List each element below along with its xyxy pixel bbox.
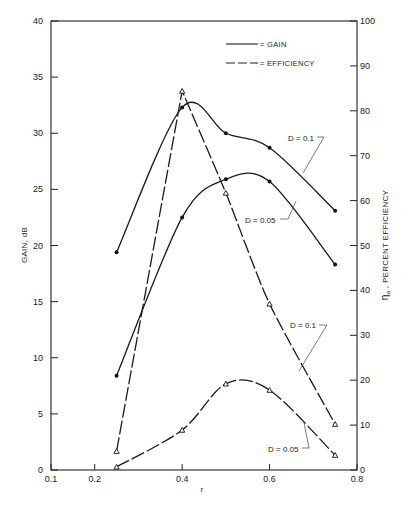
- dot-marker: [115, 374, 119, 378]
- y2-tick-label: 10: [360, 420, 370, 430]
- series-line: [117, 91, 336, 451]
- y-tick-label: 25: [33, 184, 43, 194]
- y-tick-label: 40: [33, 16, 43, 26]
- dot-marker: [115, 250, 119, 254]
- triangle-marker: [333, 422, 338, 427]
- plot-border: [51, 21, 357, 470]
- dot-marker: [333, 263, 337, 267]
- y-tick-label: 30: [33, 128, 43, 138]
- annotation-gain-d01: D = 0.1: [288, 134, 315, 143]
- y2-tick-label: 40: [360, 285, 370, 295]
- dot-marker: [224, 131, 228, 135]
- annotation-eff-d01: D = 0.1: [290, 321, 317, 330]
- y-tick-label: 10: [33, 353, 43, 363]
- y2-tick-label: 20: [360, 375, 370, 385]
- dot-marker: [268, 180, 272, 184]
- dot-marker: [333, 209, 337, 213]
- dot-marker: [268, 146, 272, 150]
- triangle-marker: [114, 449, 119, 454]
- triangle-marker: [180, 88, 185, 93]
- triangle-marker: [114, 464, 119, 469]
- y2-tick-label: 60: [360, 196, 370, 206]
- leader-gain-d005: [280, 201, 296, 219]
- plot-frame: [51, 21, 357, 470]
- x-tick-label: 0.6: [263, 474, 276, 484]
- y2-tick-label: 100: [360, 16, 375, 26]
- chart: 051015202530354001020304050607080901000.…: [0, 0, 413, 512]
- annotation-gain-d005: D = 0.05: [245, 216, 276, 225]
- y2-tick-label: 70: [360, 151, 370, 161]
- x-tick-label: 0.2: [88, 474, 101, 484]
- dot-marker: [180, 215, 184, 219]
- x-tick-label: 0.8: [351, 474, 364, 484]
- x-axis-title: r: [201, 485, 204, 494]
- y-axis-title: GAIN, dB: [20, 227, 29, 263]
- y-tick-label: 20: [33, 241, 43, 251]
- y2-tick-label: 30: [360, 330, 370, 340]
- dot-marker: [224, 177, 228, 181]
- annotations: D = 0.1 D = 0.05 D = 0.1 D = 0.05: [245, 134, 327, 454]
- x-tick-label: 0.4: [176, 474, 189, 484]
- legend-efficiency-label: = EFFICIENCY: [260, 59, 315, 68]
- leader-eff-d01: [299, 325, 327, 371]
- y2-label-text: , PERCENT EFFICIENCY: [381, 189, 390, 290]
- series-line: [117, 380, 336, 467]
- y2-tick-label: 80: [360, 106, 370, 116]
- legend: = GAIN = EFFICIENCY: [226, 40, 315, 68]
- dot-marker: [180, 105, 184, 109]
- y-tick-label: 5: [38, 409, 43, 419]
- y-tick-label: 0: [38, 465, 43, 475]
- y2-axis-title: ηa , PERCENT EFFICIENCY: [379, 189, 391, 300]
- y-tick-label: 35: [33, 72, 43, 82]
- triangle-marker: [267, 301, 272, 306]
- data-curves: [117, 91, 336, 467]
- annotation-eff-d005: D = 0.05: [268, 445, 299, 454]
- y2-tick-label: 90: [360, 61, 370, 71]
- series-line: [117, 102, 336, 252]
- x-tick-label: 0.1: [45, 474, 58, 484]
- legend-gain-label: = GAIN: [260, 40, 287, 49]
- y2-tick-label: 50: [360, 241, 370, 251]
- y-tick-label: 15: [33, 297, 43, 307]
- triangle-marker: [223, 190, 228, 195]
